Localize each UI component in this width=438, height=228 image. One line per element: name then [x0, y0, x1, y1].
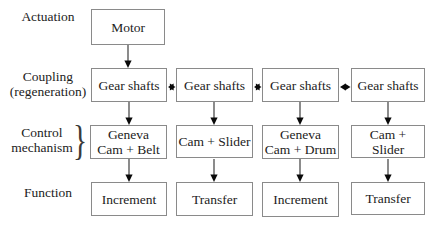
arrow-gear4-to-control4 [384, 102, 391, 125]
arrow-control2-to-function2 [210, 159, 217, 182]
function-box-4: Transfer [351, 182, 425, 215]
function-box-1: Increment [91, 182, 167, 216]
arrow-control1-to-function1 [125, 159, 132, 182]
control-box-4: Cam + Slider [351, 125, 425, 158]
control-box-1: Geneva Cam + Belt [90, 125, 167, 159]
row-label-actuation: Actuation [6, 10, 90, 25]
control-box-3: Geneva Cam + Drum [262, 125, 339, 159]
row-label-function: Function [6, 186, 90, 201]
row-label-control-mechanism: Control mechanism [2, 126, 82, 155]
gear-shafts-box-1: Gear shafts [91, 68, 167, 102]
arrow-gear2-to-control2 [210, 102, 217, 125]
double-arrow-gear2-gear3 [254, 84, 262, 91]
arrow-gear1-to-control1 [125, 102, 132, 125]
double-arrow-gear1-gear2 [168, 84, 176, 91]
arrow-control4-to-function4 [384, 159, 391, 182]
double-arrow-gear3-gear4 [340, 84, 351, 91]
gear-shafts-box-3: Gear shafts [262, 68, 339, 102]
arrow-gear3-to-control3 [296, 102, 303, 125]
gear-shafts-box-2: Gear shafts [176, 68, 253, 102]
motor-box: Motor [91, 9, 165, 45]
diagram-canvas: Actuation Coupling (regeneration) Contro… [0, 0, 438, 228]
function-box-3: Increment [262, 182, 339, 217]
control-box-2: Cam + Slider [176, 125, 253, 158]
function-box-2: Transfer [176, 182, 253, 216]
arrow-control3-to-function3 [296, 159, 303, 182]
arrow-motor-to-gear1 [124, 45, 131, 68]
row-label-coupling: Coupling (regeneration) [2, 70, 94, 99]
curly-brace: } [73, 121, 87, 159]
gear-shafts-box-4: Gear shafts [351, 68, 425, 102]
